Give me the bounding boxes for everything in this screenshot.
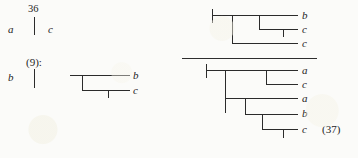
tree-top-right-leaf-label-c-2: c [302, 38, 307, 49]
left-top-leaf-c: c [48, 24, 53, 35]
tree-top-right-branch-b [212, 15, 298, 16]
figure-caption-37: (37) [322, 124, 340, 135]
tree-bottom-right-branch-a-mid [225, 98, 298, 99]
tree-bottom-right-leaf-label-b: b [302, 108, 308, 119]
tree-top-right-inner-tick [283, 29, 284, 37]
tree-top-right-root-tick [212, 9, 213, 23]
left-top-branch-tick [34, 17, 35, 35]
tree-left-leaf-label-c: c [133, 85, 138, 96]
tree-bottom-right-bottom-tick [283, 129, 284, 138]
tree-bottom-right-node-outer [225, 70, 226, 113]
tree-bottom-right-node-cherry [266, 70, 267, 84]
branch-length-36: 36 [28, 4, 39, 15]
tree-bottom-right-leaf-label-a-2: a [302, 93, 308, 104]
tree-bottom-right-root-tick [206, 64, 207, 78]
figure-canvas: a 36 c (9): b b c b c c [0, 0, 358, 158]
tree-bottom-right-node-ladder [245, 98, 246, 114]
tree-bottom-right-branch-a-top [206, 70, 298, 71]
tree-bottom-right-leaf-label-c-1: c [302, 79, 307, 90]
tree-bottom-right-leaf-label-c-2: c [302, 124, 307, 135]
tree-top-right-leaf-label-c-1: c [302, 24, 307, 35]
tree-bottom-right-branch-c-bottom [262, 129, 298, 130]
tree-bottom-right-branch-c-cherry [266, 84, 298, 85]
tree-left-branch-b [70, 75, 130, 76]
tree-top-right-node-outer [232, 15, 233, 43]
tree-top-right-branch-c-bottom [232, 43, 298, 44]
tree-bottom-right-leaf-label-a-1: a [302, 65, 308, 76]
left-bottom-branch-tick [34, 69, 35, 88]
tree-left-root-tick [108, 90, 109, 98]
tree-bottom-right-branch-b [245, 114, 298, 115]
left-bottom-leaf-b: b [8, 72, 14, 83]
separator-rule [182, 58, 317, 59]
tree-top-right-leaf-label-b: b [302, 10, 308, 21]
tree-top-right-branch-c-middle [259, 29, 298, 30]
tree-bottom-right-node-final [262, 114, 263, 129]
left-top-leaf-a: a [8, 24, 14, 35]
tree-left-internal-node [82, 75, 83, 90]
node-label-9: (9): [26, 57, 42, 68]
tree-left-leaf-label-b: b [133, 70, 139, 81]
tree-left-branch-c [82, 90, 130, 91]
tree-top-right-node-inner [259, 15, 260, 29]
